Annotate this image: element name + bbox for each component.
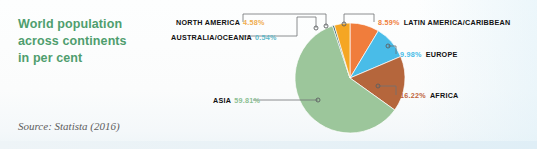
label-europe: 9.98%EUROPE [400,50,458,59]
label-australia-oceania-value: 0.54% [255,33,277,42]
label-asia: ASIA59.81% [213,96,260,105]
label-australia-oceania-name: AUSTRALIA/OCEANIA [171,33,252,42]
leader-latin-america [344,14,374,24]
label-latin-america: 8.59%LATIN AMERICA/CARIBBEAN [378,18,510,27]
pie-slices [295,23,405,133]
label-north-america-value: 4.58% [243,18,265,27]
label-africa-name: AFRICA [430,91,459,100]
label-europe-name: EUROPE [426,50,458,59]
label-north-america-name: NORTH AMERICA [176,18,240,27]
label-latin-america-value: 8.59% [378,18,400,27]
label-europe-value: 9.98% [400,50,422,59]
label-north-america: NORTH AMERICA4.58% [176,18,265,27]
label-asia-value: 59.81% [234,96,260,105]
infographic-card: World population across continents in pe… [0,0,537,149]
label-australia-oceania: AUSTRALIA/OCEANIA0.54% [171,33,277,42]
label-africa: 16.22%AFRICA [400,91,459,100]
label-latin-america-name: LATIN AMERICA/CARIBBEAN [404,18,511,27]
label-asia-name: ASIA [213,96,231,105]
label-africa-value: 16.22% [400,91,426,100]
